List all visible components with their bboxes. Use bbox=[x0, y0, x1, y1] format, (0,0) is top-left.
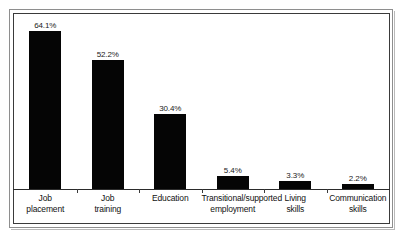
bar-group: 52.2% bbox=[77, 14, 140, 189]
category-label-line2: skills bbox=[327, 204, 390, 215]
category-label-line1: Communication bbox=[329, 193, 386, 203]
bar-value-label: 64.1% bbox=[34, 21, 56, 30]
bar-series: 64.1%52.2%30.4%5.4%3.3%2.2% bbox=[14, 14, 389, 189]
category-label-line2: employment bbox=[202, 204, 265, 215]
bar bbox=[92, 60, 124, 189]
bar bbox=[217, 176, 249, 189]
category-label: Jobtraining bbox=[77, 190, 140, 223]
x-axis-category-labels: JobplacementJobtrainingEducationTransiti… bbox=[14, 190, 389, 223]
bar-value-label: 2.2% bbox=[349, 174, 367, 183]
bar-group: 3.3% bbox=[264, 14, 327, 189]
category-label-line1: Job bbox=[101, 193, 114, 203]
bar-group: 2.2% bbox=[327, 14, 390, 189]
category-label: Transitional/supportedemployment bbox=[202, 190, 265, 223]
bar-value-label: 5.4% bbox=[224, 166, 242, 175]
category-label-line1: Education bbox=[152, 193, 188, 203]
bar-value-label: 30.4% bbox=[159, 104, 181, 113]
category-label-line2: placement bbox=[14, 204, 77, 215]
category-label-line1: Job bbox=[39, 193, 52, 203]
bar-group: 5.4% bbox=[202, 14, 265, 189]
category-label-line2: training bbox=[77, 204, 140, 215]
bar bbox=[154, 114, 186, 189]
bar-group: 30.4% bbox=[139, 14, 202, 189]
bar-group: 64.1% bbox=[14, 14, 77, 189]
bar-chart-figure: 64.1%52.2%30.4%5.4%3.3%2.2% Jobplacement… bbox=[0, 0, 403, 235]
category-label: Jobplacement bbox=[14, 190, 77, 223]
bar-value-label: 3.3% bbox=[286, 171, 304, 180]
category-label-line2: skills bbox=[264, 204, 327, 215]
category-label: Education bbox=[139, 190, 202, 223]
bar bbox=[279, 181, 311, 189]
category-label-line1: Living bbox=[285, 193, 306, 203]
bar-value-label: 52.2% bbox=[97, 50, 119, 59]
category-label: Communicationskills bbox=[327, 190, 390, 223]
category-label: Livingskills bbox=[264, 190, 327, 223]
bar bbox=[29, 31, 61, 189]
